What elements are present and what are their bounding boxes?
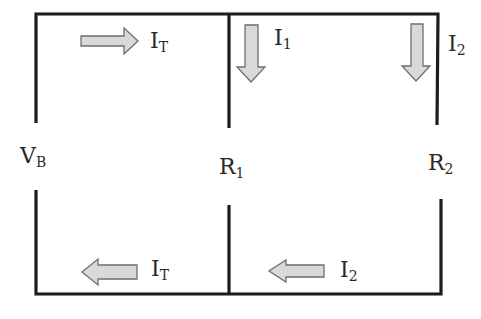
current-label-i1: I1 (274, 27, 292, 49)
component-label-vb: VB (20, 145, 46, 167)
arrow-right-icon (81, 28, 138, 54)
current-label-i2-bottom: I2 (340, 259, 358, 281)
label-subscript: T (160, 267, 169, 283)
label-subscript: 2 (445, 161, 454, 177)
label-main: I (150, 28, 159, 53)
top-wire (36, 14, 438, 125)
label-main: I (151, 256, 160, 281)
current-label-it-bottom: IT (151, 258, 169, 280)
arrow-down-icon (237, 25, 265, 82)
label-subscript: 2 (349, 268, 358, 284)
label-main: R (219, 154, 236, 179)
label-subscript: 2 (457, 42, 466, 58)
label-main: I (274, 25, 283, 50)
label-subscript: B (36, 154, 46, 170)
arrow-left-icon (82, 259, 137, 285)
label-main: V (20, 143, 36, 168)
current-label-i2-top: I2 (448, 33, 466, 55)
component-label-r1: R1 (219, 156, 245, 178)
label-main: I (448, 31, 457, 56)
current-label-it-top: IT (150, 30, 168, 52)
label-subscript: 1 (283, 36, 292, 52)
arrow-down-icon (402, 24, 430, 81)
component-label-r2: R2 (428, 152, 454, 174)
arrow-left-icon (269, 260, 324, 282)
label-main: R (428, 150, 445, 175)
label-subscript: 1 (236, 165, 245, 181)
label-subscript: T (159, 39, 168, 55)
label-main: I (340, 257, 349, 282)
